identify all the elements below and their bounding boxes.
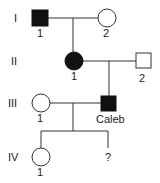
generation-label-1: I [14,12,17,24]
connector-lines [41,18,136,148]
individual-I1-label: 1 [37,27,43,39]
generation-label-2: II [11,55,17,67]
individual-II1-label: 1 [71,70,77,82]
individual-II2-male [136,53,151,68]
individual-IV2-unknown: ? [105,151,111,163]
individual-caleb-affected-male [101,96,116,111]
individual-caleb-label: Caleb [96,113,125,125]
individual-I2-female [98,9,116,27]
generation-label-4: IV [8,151,19,163]
generation-label-3: III [8,97,17,109]
individual-I1-affected-male [32,10,48,26]
individual-II1-affected-female [65,52,83,70]
pedigree-chart: I II III IV 1 2 1 2 1 Caleb 1 ? [0,0,160,183]
individual-IV1-female [32,148,50,166]
individual-III1-female [32,94,50,112]
individual-III1-label: 1 [37,112,43,124]
individual-II2-label: 2 [139,72,145,84]
individual-IV1-label: 1 [37,166,43,178]
individual-I2-label: 2 [103,27,109,39]
